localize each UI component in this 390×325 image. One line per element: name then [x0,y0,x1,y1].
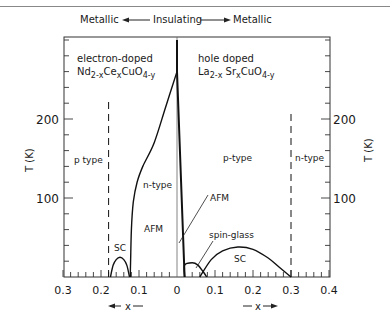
y-tick-label-right: 200 [333,113,356,127]
phase-diagram-chart: 1001002002000.30.20.100.10.20.30.4 Metal… [0,0,390,325]
y-axis-label-left: T (K) [24,148,35,173]
region-label-p-type-right: p-type [223,153,253,163]
formula-part: CuO [121,66,142,77]
formula-part: CuO [241,66,262,77]
y-tick-label-left: 100 [36,192,59,206]
region-label-sc-left: SC [114,243,126,253]
region-label-afm-left: AFM [144,224,163,234]
x-arrow-right-head-icon [271,304,278,309]
formula-part: Sr [222,66,237,77]
x-tick-label-right: 0.3 [282,284,300,297]
x-arrow-left-head-icon [108,304,115,309]
x-tick-label-left: 0.1 [130,284,148,297]
series-afm-boundary-hole-doped [177,40,185,277]
x-tick-label-right: 0.1 [206,284,224,297]
spin-glass-leader-line [196,241,213,268]
region-label-spin-glass: spin-glass [209,230,254,240]
y-tick-label-left: 200 [36,113,59,127]
region-label-n-type-right: n-type [295,153,325,163]
left-panel-title: electron-doped [77,53,153,64]
series-sc-dome-electron-doped [111,257,130,277]
left-panel-formula: Nd2-xCexCuO4-y [77,66,155,80]
region-label-n-type-left: n-type [143,180,173,190]
formula-sub: 4-y [262,71,275,80]
series-afm-boundary-electron-doped [130,72,177,277]
region-label-p-type-left: p type [74,155,103,165]
right-panel-title: hole doped [198,53,254,64]
header-center-insulating: Insulating [153,14,202,25]
formula-part: Ce [104,66,117,77]
formula-part: La [198,66,210,77]
header-right-metallic: Metallic [233,14,272,25]
series-spin-glass-dome [184,263,207,277]
header-left-metallic: Metallic [80,14,119,25]
region-label-afm-right: AFM [210,193,229,203]
region-label-sc-right: SC [234,254,246,264]
x-tick-label-left: 0 [174,284,181,297]
x-tick-label-left: 0.3 [54,284,72,297]
right-panel-formula: La2-x SrxCuO4-y [198,66,275,80]
x-tick-label-right: 0.4 [320,284,338,297]
x-axis-label-right: x [255,301,261,312]
x-axis-label-left: x [125,301,131,312]
y-axis-label-right: T (K) [363,138,374,163]
y-tick-label-right: 100 [333,192,356,206]
formula-sub: 2-x [91,71,104,80]
x-tick-label-left: 0.2 [92,284,110,297]
header-arrow-right-head-icon [224,18,231,23]
formula-sub: 2-x [210,71,223,80]
formula-part: Nd [77,66,91,77]
formula-sub: 4-y [143,71,156,80]
x-tick-label-right: 0.2 [244,284,262,297]
header-arrow-left-head-icon [122,18,129,23]
